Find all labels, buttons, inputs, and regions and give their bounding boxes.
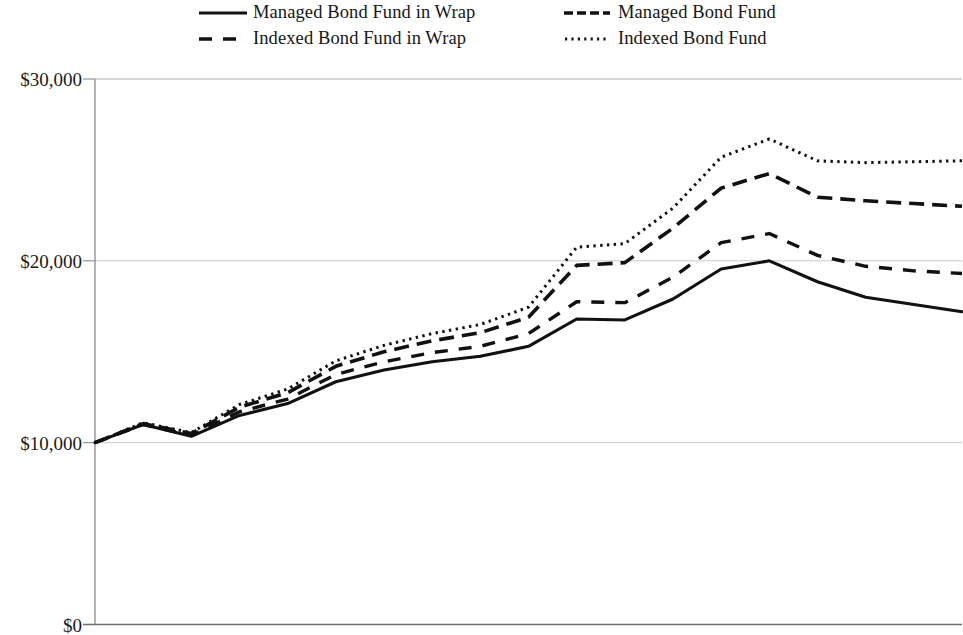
data-series-group [95, 139, 962, 443]
axis-ticks [83, 79, 95, 625]
gridlines [95, 79, 962, 443]
line-chart: Managed Bond Fund in Wrap Managed Bond F… [0, 0, 963, 635]
series-line-indexed-bond-fund [95, 139, 962, 443]
plot-area [0, 0, 963, 635]
axis-lines [83, 79, 962, 625]
series-line-indexed-bond-fund-in-wrap [95, 234, 962, 443]
